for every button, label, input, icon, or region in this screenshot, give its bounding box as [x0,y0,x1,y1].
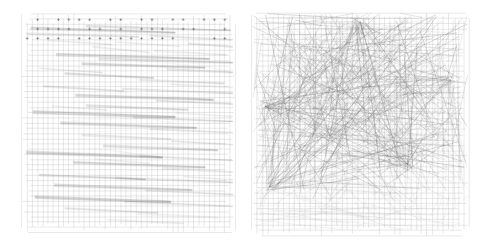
left-panel-canvas [0,0,241,247]
right-panel-canvas [241,0,483,247]
figure-container [0,0,483,247]
left-panel [0,0,241,247]
edge-layer [252,13,468,231]
right-panel [241,0,483,247]
